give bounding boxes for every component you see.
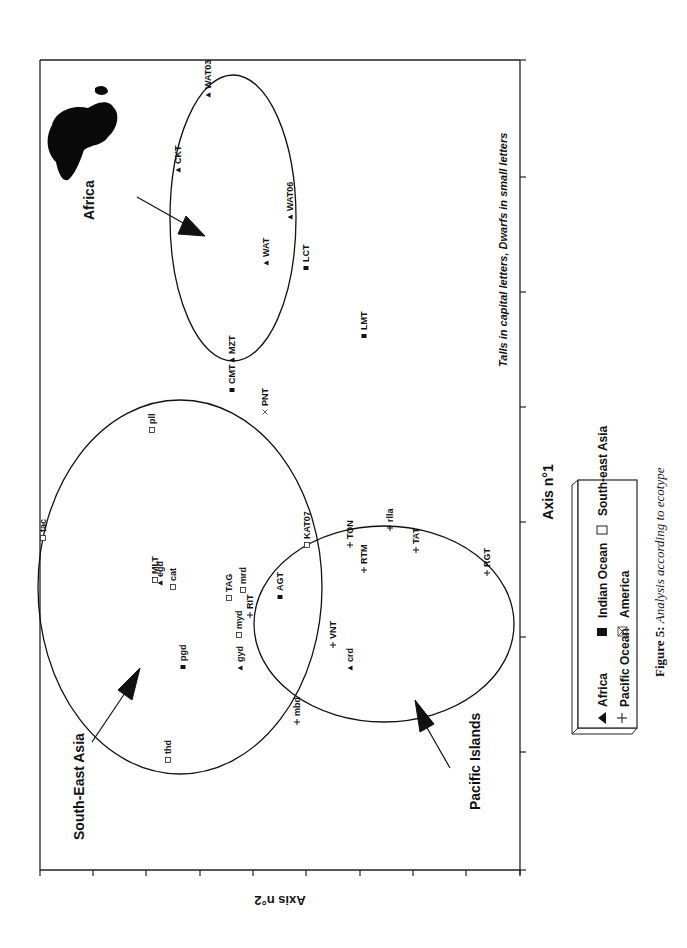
triangle-marker-icon [238,666,243,671]
plus-marker-icon [413,547,419,553]
triangle-marker-icon [206,93,211,98]
figure-caption: Figure 5: Analysis according to ecotype [652,467,667,677]
data-point: PNT [260,387,270,414]
legend-sea-label: South-east Asia [596,425,610,516]
triangle-marker-icon [230,358,235,363]
point-label: myd [234,610,244,629]
arrows [92,197,450,768]
open-square-marker-icon [166,758,171,763]
data-point: WAT [261,237,271,265]
point-label: CKT [173,145,183,164]
filled-square-marker-icon [181,665,186,669]
sea-group-label: South-East Asia [71,733,87,840]
open-square-marker-icon [150,428,155,433]
triangle-marker-icon [264,261,269,266]
data-point: TON [345,520,355,548]
data-point: KAT07 [302,511,312,547]
point-label: tac [38,519,48,532]
point-label: WAT [261,237,271,257]
triangle-marker-icon [348,666,353,671]
legend-america-label: America [618,570,632,618]
triangle-marker-icon [176,168,181,173]
data-point: RIT [245,594,255,618]
point-label: TON [345,520,355,539]
data-point: crd [345,648,355,671]
legend-pacific-label: Pacific Ocean [618,628,632,707]
point-label: thd [163,740,173,754]
legend-indian-ocean-label: Indian Ocean [596,543,610,618]
data-point: TAT [411,527,421,553]
point-label: crd [345,648,355,662]
point-label: RTM [359,545,369,565]
axis1-label: Axis n°1 [540,464,556,520]
africa-map-icon [48,86,118,180]
point-label: MLT [150,556,160,574]
plus-marker-icon [294,719,300,725]
data-point: RTM [359,545,369,574]
point-label: MZT [227,335,237,354]
point-label: mrd [238,567,248,584]
point-label: pgd [178,645,188,662]
point-label: LMT [359,311,369,330]
plot-frame [40,60,520,875]
data-point: TAG [224,574,234,601]
data-point: MZT [227,335,237,362]
open-square-marker-icon [237,633,242,638]
point-label: mbd [292,697,302,716]
data-point: MLT [150,556,160,583]
data-point: CMT [227,364,237,392]
point-label: RGT [482,548,492,568]
point-label: PNT [260,387,270,406]
tall-dwarf-note: Talls in capital letters, Dwarfs in smal… [497,133,509,367]
group-ellipse [254,526,514,722]
data-point: VNT [328,620,338,648]
data-point: cat [168,568,178,590]
data-point: WAT06 [285,182,295,220]
legend-africa-label: Africa [596,673,610,707]
legend-sea-icon [597,526,607,534]
triangle-marker-icon [158,581,163,586]
open-square-marker-icon [241,588,246,593]
point-label: TAT [411,527,421,544]
plus-marker-icon [347,542,353,548]
pacific-group-label: Pacific Islands [467,713,483,810]
point-label: KAT07 [302,511,312,539]
point-label: RIT [245,594,255,609]
data-point: LMT [359,311,369,338]
point-label: rlla [385,507,395,522]
data-point: LCT [301,244,311,270]
point-label: WAT03 [203,60,213,89]
data-point: rlla [385,507,395,531]
point-label: AGT [275,572,285,592]
filled-square-marker-icon [278,595,283,599]
point-label: cat [168,568,178,581]
data-point: myd [234,610,244,637]
data-point: CKT [173,145,183,172]
filled-square-marker-icon [230,388,235,392]
axis2-label: Axis n°2 [254,893,305,908]
filled-square-marker-icon [362,334,367,338]
legend-indian-ocean-icon [597,628,607,636]
data-point: mrd [238,567,248,593]
legend: Africa Indian Ocean South-east Asia Paci… [572,425,637,734]
data-point: gyd [235,646,245,671]
open-square-marker-icon [305,543,310,548]
data-point: WAT03 [203,60,213,98]
point-label: TAG [224,574,234,592]
point-label: LCT [301,244,311,262]
plus-marker-icon [484,570,490,576]
open-square-marker-icon [41,536,46,541]
plus-marker-icon [247,612,253,618]
triangle-marker-icon [288,215,293,220]
crossed-box-marker-icon [263,410,268,415]
data-point: pgd [178,645,188,670]
data-point: thd [163,740,173,763]
group-ellipses [38,75,514,774]
figure-canvas: Africa South-East Asia Pacific Islands T… [0,0,687,948]
open-square-marker-icon [153,578,158,583]
data-point: AGT [275,572,285,600]
data-point: mbd [292,697,302,725]
open-square-marker-icon [227,596,232,601]
open-square-marker-icon [171,585,176,590]
axis-ticks [40,60,526,876]
